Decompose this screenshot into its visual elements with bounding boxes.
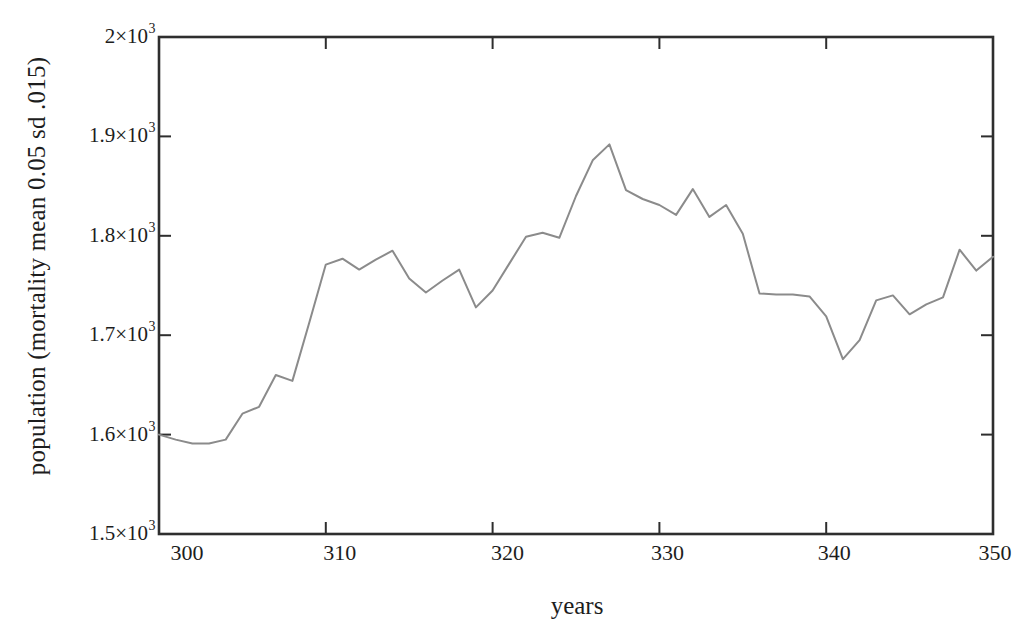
line-chart: [0, 0, 1028, 642]
population-line: [159, 144, 993, 443]
x-axis-title: years: [551, 592, 604, 620]
population-chart-figure: population (mortality mean 0.05 sd .015)…: [0, 0, 1028, 642]
plot-box: [159, 37, 993, 534]
